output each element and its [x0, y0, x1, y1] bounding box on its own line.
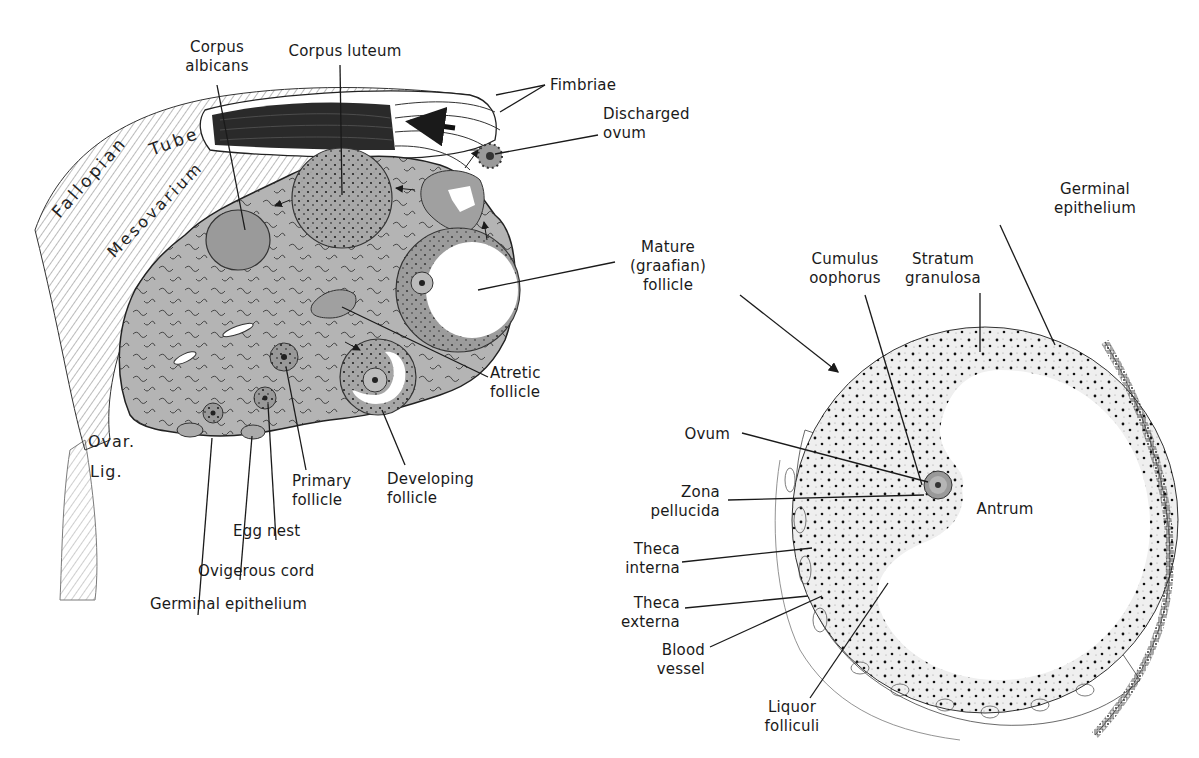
- label-germinal-epithelium-right: Germinal epithelium: [1040, 180, 1150, 218]
- mature-follicle-left: [396, 228, 520, 352]
- corpus-albicans: [206, 210, 270, 270]
- label-mature-follicle: Mature (graafian) follicle: [618, 238, 718, 295]
- label-egg-nest: Egg nest: [233, 522, 300, 541]
- label-antrum: Antrum: [965, 500, 1045, 519]
- label-fimbriae: Fimbriae: [550, 76, 616, 95]
- label-developing-follicle: Developing follicle: [387, 470, 474, 508]
- graafian-follicle-detail: [775, 327, 1178, 740]
- label-stratum-granulosa: Stratum granulosa: [898, 250, 988, 288]
- label-discharged-ovum: Discharged ovum: [603, 105, 690, 143]
- discharged-ovum: [478, 144, 502, 168]
- label-theca-externa: Theca externa: [610, 594, 680, 632]
- diagram-drawing: [0, 0, 1199, 758]
- developing-follicle-shape: [340, 339, 416, 415]
- label-corpus-luteum: Corpus luteum: [280, 42, 410, 61]
- label-blood-vessel: Blood vessel: [650, 641, 705, 679]
- label-ovum: Ovum: [680, 425, 730, 444]
- label-corpus-albicans: Corpus albicans: [172, 38, 262, 76]
- label-primary-follicle: Primary follicle: [292, 472, 351, 510]
- label-ovigerous-cord: Ovigerous cord: [198, 562, 314, 581]
- label-cumulus-oophorus: Cumulus oophorus: [800, 250, 890, 288]
- ovary-diagram: Fallopian Tube Mesovarium Ovar. Lig. Cor…: [0, 0, 1199, 758]
- label-germinal-epithelium-left: Germinal epithelium: [150, 595, 307, 614]
- label-ovar: Ovar.: [88, 432, 135, 451]
- label-zona-pellucida: Zona pellucida: [640, 483, 720, 521]
- label-theca-interna: Theca interna: [610, 540, 680, 578]
- label-liquor-folliculi: Liquor folliculi: [752, 698, 832, 736]
- label-atretic-follicle: Atretic follicle: [490, 364, 541, 402]
- label-lig: Lig.: [90, 462, 123, 481]
